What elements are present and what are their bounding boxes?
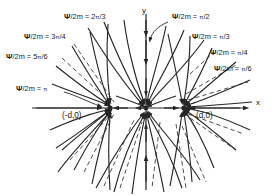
label-body: /2m = 3	[30, 32, 55, 41]
contour-label-5pi-6: Ψ/2m = 5π/6	[6, 52, 48, 62]
label-body: /2m =	[220, 64, 241, 73]
label-body: /2m = 2	[70, 12, 95, 21]
label-suffix: /3	[99, 12, 105, 21]
right-focus-label: (d,0)	[196, 111, 213, 120]
left-focus-marker	[107, 105, 112, 110]
contour-label-pi: Ψ/2m = π	[16, 84, 47, 94]
label-body: /2m = 5	[12, 52, 37, 61]
contour-label-pi-3: Ψ/2m = π/3	[192, 32, 230, 42]
right-focus-marker	[181, 105, 186, 110]
label-suffix: /4	[59, 32, 65, 41]
label-body: /2m =	[22, 84, 43, 93]
leader-pi	[64, 92, 100, 106]
y-axis-label: y	[142, 6, 146, 15]
label-body: /2m =	[198, 32, 219, 41]
contour-label-pi-2: Ψ/2m = π/2	[172, 12, 210, 22]
x-axis-label: x	[256, 98, 260, 107]
label-suffix: /6	[41, 52, 47, 61]
contour-label-pi-4: Ψ/2m = π/4	[210, 48, 248, 58]
label-suffix: /6	[245, 64, 251, 73]
label-suffix: /4	[241, 48, 247, 57]
contour-label-2pi-3: Ψ/2m = 2π/3	[64, 12, 106, 22]
streamlines-lower-center	[96, 113, 200, 194]
pi-symbol: π	[43, 86, 47, 92]
label-body: /2m =	[178, 12, 199, 21]
streamlines-lower-right	[170, 109, 250, 186]
figure-container: Ψ/2m = 2π/3 Ψ/2m = 3π/4 Ψ/2m = 5π/6 Ψ/2m…	[0, 0, 279, 196]
contour-label-pi-6: Ψ/2m = π/6	[214, 64, 252, 74]
label-suffix: /2	[203, 12, 209, 21]
center-node-marker	[144, 106, 149, 111]
streamline-plot	[0, 0, 279, 196]
contour-label-3pi-4: Ψ/2m = 3π/4	[24, 32, 66, 42]
left-focus-label: (-d,0)	[62, 111, 82, 120]
label-suffix: /3	[223, 32, 229, 41]
label-body: /2m =	[216, 48, 237, 57]
